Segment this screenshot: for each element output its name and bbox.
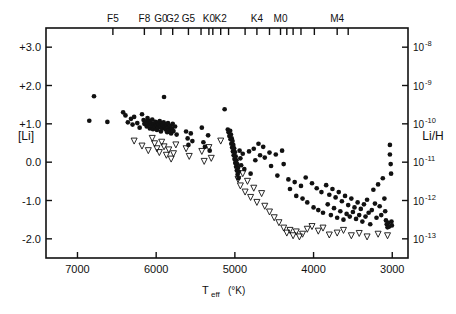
svg-text:10: 10 [413,42,425,53]
data-point-marker [269,164,274,169]
data-point-marker [261,144,266,149]
bottom-axis-title-subscript: eff [211,290,221,299]
bottom-tick-label: 7000 [65,263,89,275]
data-point-marker [369,208,374,213]
data-point-marker [354,217,359,222]
data-point-marker [379,213,384,218]
data-point-marker [388,143,393,148]
data-point-marker [173,124,178,129]
data-point-marker [303,175,308,180]
data-point-marker [389,171,394,176]
data-point-marker [253,158,258,163]
data-point-marker [360,219,365,224]
spectral-type-label: M0 [274,13,288,24]
bottom-axis-title-unit: (°K) [228,285,245,296]
data-point-marker [330,187,335,192]
data-point-marker [335,215,340,220]
data-point-marker [376,182,381,187]
data-point-marker [343,194,348,199]
svg-text:10: 10 [413,196,425,207]
data-point-marker [233,150,238,155]
data-point-marker [238,156,243,161]
svg-text:-11: -11 [425,154,435,163]
data-point-marker [362,202,367,207]
data-point-marker [162,95,167,100]
data-point-marker [275,173,280,178]
svg-text:-10: -10 [425,116,436,125]
data-point-marker [388,162,393,167]
data-point-marker [240,151,245,156]
data-point-marker [321,210,326,215]
data-point-marker [248,171,253,176]
data-point-marker [294,194,299,199]
data-point-marker [351,210,356,215]
data-point-marker [324,183,329,188]
data-point-marker [171,129,176,134]
data-point-marker [140,112,145,117]
data-point-marker [87,118,92,123]
left-tick-label: -1.0 [22,195,41,207]
left-tick-label: -2.0 [22,233,41,245]
data-point-marker [251,146,256,151]
data-point-marker [368,222,373,227]
data-point-marker [310,181,315,186]
data-point-marker [137,125,142,130]
data-point-marker [184,129,189,134]
data-point-marker [382,196,387,201]
svg-text:10: 10 [413,81,425,92]
left-tick-label: +2.0 [19,80,41,92]
data-point-marker [390,223,395,228]
data-point-marker [239,163,244,168]
svg-text:10: 10 [413,234,425,245]
data-point-marker [349,196,354,201]
spectral-type-label: G2 [166,13,180,24]
data-point-marker [357,213,362,218]
data-point-marker [130,122,135,127]
data-point-marker [329,213,334,218]
data-point-marker [247,149,252,154]
data-point-marker [377,204,382,209]
scatter-plot-canvas: 70006000500040003000 +3.0+2.0+1.00.0-1.0… [0,0,456,314]
data-point-marker [258,153,263,158]
data-point-marker [352,205,357,210]
data-point-marker [188,131,193,136]
data-point-marker [371,187,376,192]
data-point-marker [262,155,267,160]
data-point-marker [333,195,338,200]
data-point-marker [286,177,291,182]
data-point-marker [206,133,211,138]
bottom-axis-title-main: T [202,284,209,296]
data-point-marker [336,190,341,195]
data-point-marker [363,214,368,219]
data-point-marker [300,196,305,201]
left-axis-title: [Li] [18,129,34,143]
data-point-marker [355,200,360,205]
right-axis-title: Li/H [422,129,443,143]
svg-text:10: 10 [413,157,425,168]
data-point-marker [199,125,204,130]
svg-text:-12: -12 [425,193,436,202]
data-point-marker [327,192,332,197]
data-point-marker [201,140,206,145]
left-tick-label: +3.0 [19,41,41,53]
lithium-abundance-figure: 70006000500040003000 +3.0+2.0+1.00.0-1.0… [0,0,456,314]
data-point-marker [340,199,345,204]
data-point-marker [305,200,310,205]
data-point-marker [325,202,330,207]
data-point-marker [92,94,97,99]
data-point-marker [105,120,110,125]
data-point-marker [288,187,293,192]
data-point-marker [123,113,128,118]
data-point-marker [346,203,351,208]
svg-text:-13: -13 [425,231,436,240]
data-point-marker [174,132,179,137]
data-point-marker [388,152,393,157]
data-point-marker [267,150,272,155]
data-point-marker [135,121,140,126]
data-point-marker [358,207,363,212]
bottom-tick-label: 6000 [144,263,168,275]
spectral-type-label: K4 [251,13,264,24]
svg-text:-9: -9 [425,78,432,87]
data-point-marker [256,141,261,146]
data-point-marker [185,136,190,141]
